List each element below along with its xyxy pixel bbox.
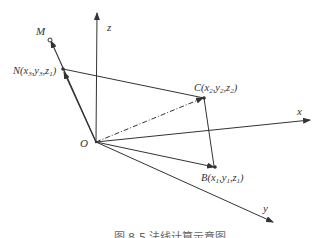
- point-B-label: B(x1,y1,z1): [201, 172, 244, 185]
- y-axis: [96, 142, 273, 222]
- point-N-label: N(x3,y3,z1): [12, 65, 57, 78]
- point-C-label: C(x2,y2,z2): [194, 82, 238, 95]
- vector-diagram: z x y O M N(x3,y3,z1) C(x2,y2,z2) B(x1,y…: [0, 0, 322, 238]
- vector-OB: [96, 142, 214, 167]
- x-axis: [96, 120, 310, 142]
- y-axis-label: y: [262, 202, 268, 214]
- x-axis-label: x: [296, 105, 302, 117]
- point-M: [48, 38, 52, 42]
- figure-caption: 图 8-5 法线计算示意图: [114, 230, 227, 238]
- point-O: [95, 141, 97, 143]
- z-axis-label: z: [106, 21, 112, 33]
- point-N: [61, 67, 65, 71]
- vector-ON: [64, 72, 96, 142]
- point-M-label: M: [35, 25, 46, 37]
- vector-OC: [96, 98, 203, 142]
- segment-CB: [204, 98, 214, 166]
- point-B: [213, 165, 217, 169]
- point-C: [202, 96, 206, 100]
- z-axis: [96, 13, 97, 142]
- origin-label: O: [80, 137, 88, 149]
- segment-NC: [63, 69, 204, 98]
